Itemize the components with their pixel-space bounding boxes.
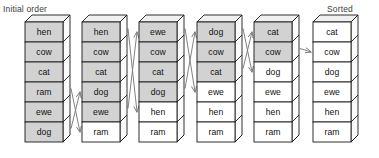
stack-cell-label: ram bbox=[37, 87, 52, 97]
stack-cell-label: cat bbox=[267, 27, 279, 37]
stack-cell-label: cow bbox=[208, 47, 224, 57]
stack-cell-label: dog bbox=[151, 87, 166, 97]
stack-cell-label: ewe bbox=[150, 27, 166, 37]
sort-stages-canvas: hencowcatramewedoghencowcatdogeweramewec… bbox=[0, 0, 379, 158]
stack-column: catcowdogewehenram bbox=[313, 15, 358, 142]
stack-cell-label: cow bbox=[93, 47, 109, 57]
stack-columns-layer: hencowcatramewedoghencowcatdogeweramewec… bbox=[25, 15, 358, 142]
stack-cell-label: ram bbox=[209, 127, 224, 137]
stack-cell-label: cow bbox=[36, 47, 52, 57]
stack-cell-label: hen bbox=[209, 107, 224, 117]
stack-cell-label: dog bbox=[94, 87, 109, 97]
stack-column: dogcowcatewehenram bbox=[197, 15, 242, 142]
stack-cell-label: ewe bbox=[208, 87, 224, 97]
stack-column: hencowcatramewedog bbox=[25, 15, 70, 142]
swap-arrow bbox=[300, 49, 311, 53]
stack-column: catcowdogewehenram bbox=[254, 15, 299, 142]
stack-cell-label: dog bbox=[325, 67, 340, 77]
stack-cell-label: hen bbox=[37, 27, 52, 37]
stack-cell-label: ram bbox=[325, 127, 340, 137]
stack-cell-label: cat bbox=[152, 67, 164, 77]
stack-cell-label: cow bbox=[265, 47, 281, 57]
stack-cell-label: hen bbox=[94, 27, 109, 37]
stack-cell-label: dog bbox=[209, 27, 224, 37]
swap-arrow bbox=[243, 32, 252, 69]
stack-cell-label: ram bbox=[151, 127, 166, 137]
stack-cell-label: ram bbox=[94, 127, 109, 137]
stack-cell-label: cat bbox=[210, 67, 222, 77]
stack-cell-label: cat bbox=[38, 67, 50, 77]
stack-cell-label: ewe bbox=[93, 107, 109, 117]
stack-cell-label: cat bbox=[95, 67, 107, 77]
stack-column: hencowcatdogeweram bbox=[82, 15, 127, 142]
swap-arrow bbox=[71, 92, 80, 129]
stack-cell-label: dog bbox=[266, 67, 281, 77]
stack-cell-label: cow bbox=[324, 47, 340, 57]
stack-cell-label: hen bbox=[266, 107, 281, 117]
stack-cell-label: hen bbox=[325, 107, 340, 117]
stack-cell-label: ewe bbox=[36, 107, 52, 117]
selection-sort-diagram: Initial order Sorted hencowcatramewedogh… bbox=[0, 0, 379, 158]
stack-cell-label: hen bbox=[151, 107, 166, 117]
stack-cell-label: ram bbox=[266, 127, 281, 137]
stack-column: ewecowcatdoghenram bbox=[139, 15, 184, 142]
stack-cell-label: ewe bbox=[265, 87, 281, 97]
stack-cell-label: ewe bbox=[324, 87, 340, 97]
stack-cell-label: cow bbox=[150, 47, 166, 57]
stack-cell-label: dog bbox=[37, 127, 52, 137]
stack-cell-label: cat bbox=[326, 27, 338, 37]
